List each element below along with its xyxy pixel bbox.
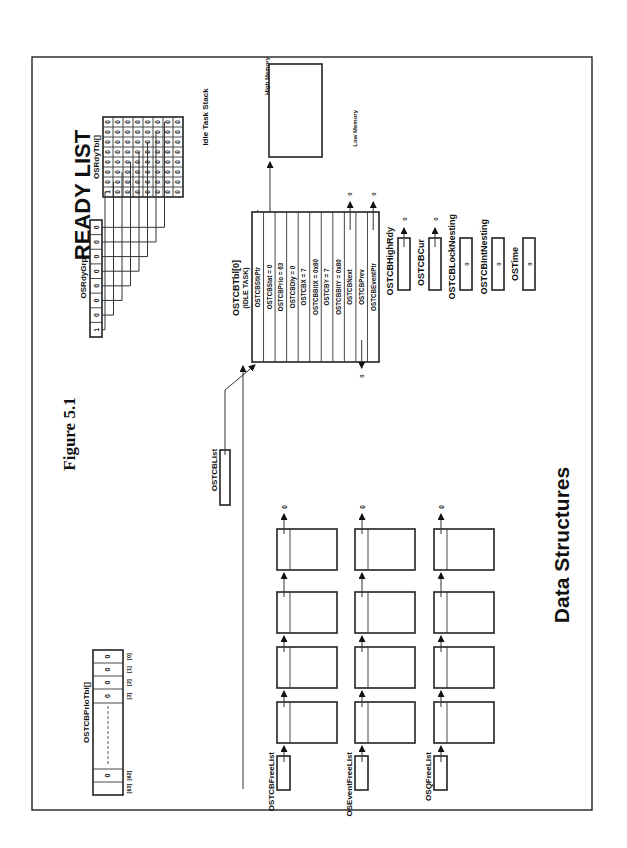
tcb-field: OSTCBPrev: [358, 269, 365, 305]
rdytbl-cell: 0: [164, 150, 171, 154]
grp-bit: 0: [93, 298, 100, 302]
rdytbl-cell: 0: [134, 160, 141, 164]
high-rdy-label: OSTCBHighRdy: [385, 227, 395, 296]
rdytbl-cell: 0: [104, 160, 111, 164]
rdytbl-cell: 0: [104, 130, 111, 134]
rdytbl-cell: 0: [164, 190, 171, 194]
rdytbl-cell: 0: [124, 150, 131, 154]
tcb-field: OSTCBNext: [346, 268, 353, 305]
free-list-0: OSTCBFreeList0: [267, 505, 337, 811]
tcb-field: OSTCBStkPtr: [254, 266, 261, 307]
prio-index: [0]: [126, 653, 132, 660]
prio-index: [1]: [126, 666, 132, 673]
rdytbl-cell: 0: [154, 140, 161, 144]
rdytbl-cell: 0: [154, 160, 161, 164]
free-node: [277, 592, 337, 633]
prio-index: [62]: [126, 770, 132, 780]
prio-index: [2]: [126, 679, 132, 686]
cur-label: OSTCBCur: [416, 239, 426, 286]
prio-value: 0: [104, 654, 111, 658]
rdytbl-cell: 0: [114, 130, 121, 134]
osrdytbl-label: OSRdyTbl[]: [92, 135, 101, 179]
rdytbl-cell: 0: [104, 120, 111, 124]
rdytbl-cell: 0: [174, 190, 181, 194]
data-structures-footer: Data Structures: [550, 467, 573, 623]
free-node: [355, 647, 415, 688]
rdytbl-cell: 0: [134, 150, 141, 154]
tcblist-arrow: [225, 365, 255, 455]
free-list-1: OSEventFreeList0: [345, 505, 415, 817]
rdytbl-cell: 0: [164, 120, 171, 124]
grp-bit: 0: [93, 255, 100, 259]
rdytbl-cell: 0: [114, 190, 121, 194]
rdytbl-cell: 0: [174, 180, 181, 184]
idle-task-stack: Idle Task Stack High Memory Low Memory: [201, 56, 358, 157]
free-list-label: OSTCBFreeList: [267, 752, 276, 811]
rdytbl-cell: 0: [154, 150, 161, 154]
rdytbl-cell: 0: [124, 140, 131, 144]
tcblist-label: OSTCBList: [210, 449, 219, 492]
rdytbl-cell: 0: [104, 150, 111, 154]
rdytbl-cell: 0: [104, 140, 111, 144]
prio-value: 0: [104, 680, 111, 684]
free-node: [434, 529, 494, 570]
lock-nesting-label: OSTCBLockNesting: [447, 214, 457, 300]
rdytbl-cell: 0: [174, 170, 181, 174]
rdytbl-cell: 0: [164, 140, 171, 144]
rdytbl-cell: 0: [114, 180, 121, 184]
tcb-field: OSTCBBitX = 0x80: [312, 259, 319, 315]
rdytbl-cell: 0: [154, 170, 161, 174]
rdytbl-cell: 0: [174, 130, 181, 134]
osrdytbl: OSRdyTbl[] 10000000000000000000000000000…: [92, 117, 183, 197]
rdytbl-cell: 0: [134, 130, 141, 134]
rdytbl-cell: 0: [124, 120, 131, 124]
rdytbl-cell: 0: [134, 140, 141, 144]
tcb-field: OSTCBPrio = 63: [277, 262, 284, 311]
prio-value: 0: [104, 773, 111, 777]
tcb-field: OSTCBX = 7: [300, 268, 307, 305]
rdytbl-cell: 0: [114, 150, 121, 154]
tcb-label: OSTCBTbl[0]: [231, 260, 241, 316]
rdytbl-cell: 0: [134, 190, 141, 194]
ostcbpriotbl: OSTCBPrioTbl[] [0]0[1]0[2]0[3]0[62]0[63]: [82, 650, 132, 795]
rdytbl-cell: 0: [154, 130, 161, 134]
ostime-label: OSTime: [510, 247, 520, 281]
tcb-sublabel: (IDLE TASK): [242, 267, 250, 308]
rdytbl-cell: 0: [174, 140, 181, 144]
grp-bit: 1: [93, 328, 100, 332]
tcb-null: 0: [347, 192, 353, 196]
rdytbl-cell: 0: [144, 120, 151, 124]
tcb-null: 0: [371, 192, 377, 196]
free-list-label: OSQFreeList: [424, 752, 433, 801]
rdytbl-cell: 0: [164, 130, 171, 134]
rdytbl-cell: 0: [164, 180, 171, 184]
prio-value: 0: [104, 694, 111, 698]
rdytbl-cell: 0: [154, 120, 161, 124]
tcb-field: OSTCBEventPtr: [370, 262, 377, 310]
free-node: [355, 592, 415, 633]
priotbl-label: OSTCBPrioTbl[]: [82, 682, 91, 743]
rdytbl-cell: 0: [104, 170, 111, 174]
int-nesting-label: OSTCBIntNesting: [479, 219, 489, 295]
rdytbl-cell: 0: [144, 130, 151, 134]
rdytbl-cell: 0: [164, 170, 171, 174]
rdytbl-cell: 0: [124, 130, 131, 134]
rdytbl-cell: 0: [174, 160, 181, 164]
free-list-null: 0: [359, 505, 366, 509]
diagram-canvas: Figure 5.1 READY LIST OSRdyGrp 10000000 …: [0, 0, 627, 848]
idle-stack-label: Idle Task Stack: [201, 88, 210, 146]
grp-bit: 0: [93, 225, 100, 229]
free-node: [355, 529, 415, 570]
free-list-label: OSEventFreeList: [345, 752, 354, 817]
grp-bit: 0: [93, 284, 100, 288]
rdytbl-cell: 0: [134, 120, 141, 124]
tcb-field: OSTCBStat = 0: [266, 264, 273, 309]
free-node: [277, 702, 337, 743]
rdytbl-cell: 0: [114, 170, 121, 174]
rdytbl-cell: 0: [114, 120, 121, 124]
figure-title: Figure 5.1: [60, 397, 79, 470]
idle-stack-box: [269, 64, 322, 157]
tcb-null: 0: [359, 374, 365, 378]
grp-bit: 0: [93, 269, 100, 273]
ostcblist: OSTCBList: [210, 365, 255, 505]
